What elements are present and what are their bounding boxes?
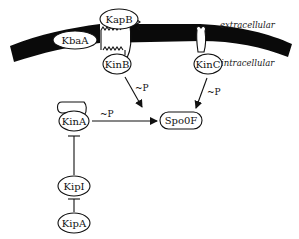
kinb-connector-wave-bottom: [103, 47, 123, 50]
edge-kinb-spo0f-label: ~P: [135, 83, 149, 93]
extracellular-label: extracellular: [220, 20, 276, 30]
node-kapb-label: KapB: [105, 14, 132, 25]
edge-kinc-spo0f-label: ~P: [207, 87, 221, 97]
intracellular-label: intracellular: [221, 58, 275, 68]
node-kina-label: KinA: [62, 116, 87, 127]
edge-kina-spo0f-label: ~P: [100, 109, 114, 119]
node-kinc-label: KinC: [196, 59, 221, 70]
node-spo0f-label: Spo0F: [165, 115, 198, 126]
node-kbaa-label: KbaA: [61, 35, 89, 46]
kinc-membrane-anchor: [196, 26, 205, 52]
node-kipi-label: KipI: [63, 181, 84, 192]
pathway-diagram: extracellular intracellular KbaA KapB Ki…: [0, 0, 299, 239]
node-kinb-label: KinB: [105, 59, 129, 70]
edge-kinc-spo0f: [196, 78, 207, 108]
node-kipa-label: KipA: [62, 218, 87, 229]
